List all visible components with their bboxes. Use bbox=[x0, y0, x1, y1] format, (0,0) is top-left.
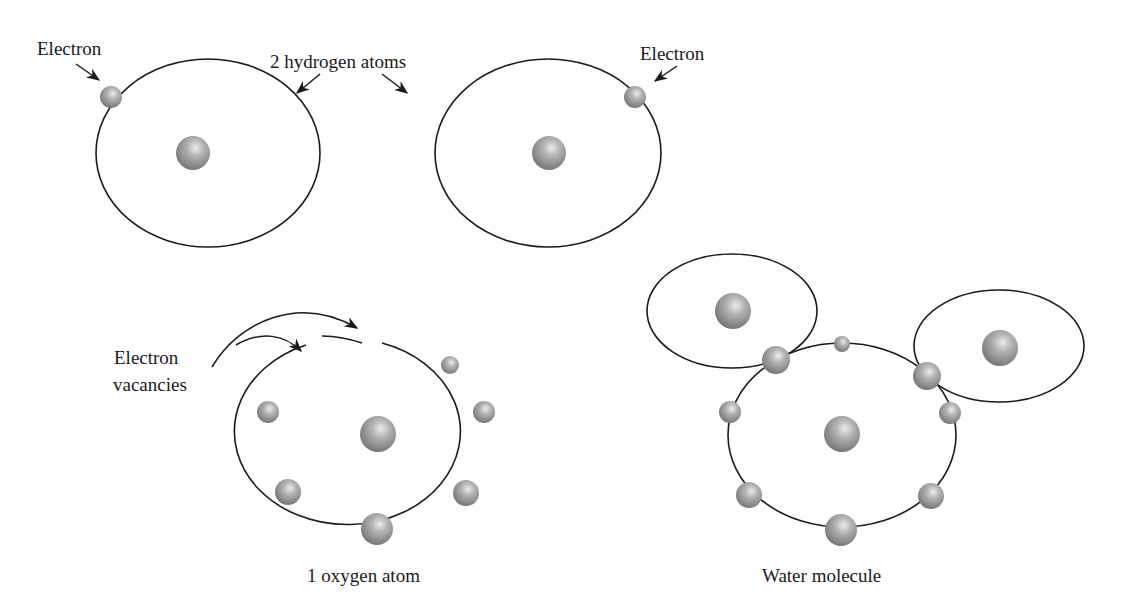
oxygen-nucleus bbox=[824, 416, 860, 452]
nucleus bbox=[532, 136, 566, 170]
electron bbox=[736, 482, 762, 508]
label-water-molecule: Water molecule bbox=[762, 565, 881, 586]
orbit bbox=[234, 343, 460, 525]
electron bbox=[918, 483, 944, 509]
label-vacancies-line2: vacancies bbox=[113, 374, 187, 395]
electron bbox=[100, 86, 122, 108]
hydrogen-nucleus-left bbox=[715, 293, 751, 329]
label-hydrogen-atoms: 2 hydrogen atoms bbox=[270, 51, 406, 72]
label-electron-right: Electron bbox=[640, 43, 705, 64]
electron bbox=[473, 401, 495, 423]
arrow-hydrogen-left bbox=[297, 74, 320, 93]
electron bbox=[257, 401, 279, 423]
electron bbox=[453, 480, 479, 506]
arrow-vacancy-lower bbox=[236, 336, 301, 351]
orbit-segment bbox=[322, 336, 362, 343]
water-molecule bbox=[647, 254, 1084, 546]
electron bbox=[939, 402, 961, 424]
electron bbox=[825, 514, 857, 546]
label-vacancies-line1: Electron bbox=[114, 347, 179, 368]
label-oxygen-atom: 1 oxygen atom bbox=[307, 565, 420, 586]
nucleus bbox=[360, 416, 396, 452]
electron bbox=[275, 479, 301, 505]
shared-electron bbox=[913, 362, 941, 390]
arrow-hydrogen-right bbox=[382, 74, 407, 93]
hydrogen-nucleus-right bbox=[982, 330, 1018, 366]
hydrogen-atom-right bbox=[435, 59, 661, 247]
shared-electron bbox=[762, 346, 790, 374]
nucleus bbox=[176, 136, 210, 170]
electron bbox=[624, 86, 646, 108]
electron bbox=[361, 513, 393, 545]
oxygen-atom bbox=[234, 336, 495, 545]
hydrogen-atom-left bbox=[96, 59, 320, 247]
label-electron-left: Electron bbox=[37, 38, 102, 59]
water-formation-diagram: Electron Electron 2 hydrogen atoms Elect… bbox=[0, 0, 1122, 605]
electron bbox=[719, 401, 741, 423]
electron bbox=[834, 336, 850, 352]
arrow-electron-right bbox=[655, 66, 677, 81]
arrow-electron-left bbox=[76, 64, 99, 80]
electron bbox=[441, 356, 459, 374]
